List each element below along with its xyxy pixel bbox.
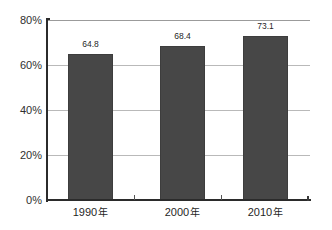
y-axis-top-cap — [46, 18, 50, 20]
x-category-label-1990: 1990年 — [48, 204, 133, 219]
bar-1990 — [68, 54, 113, 200]
x-tick-mark-1 — [134, 195, 135, 200]
x-tick-mark-2 — [221, 195, 222, 200]
x-category-unit-1990: 年 — [98, 207, 108, 218]
y-tick-label-0: 0% — [0, 194, 42, 206]
x-axis-line — [46, 199, 311, 201]
x-category-label-2010: 2010年 — [223, 204, 308, 219]
y-tick-label-40: 40% — [0, 104, 42, 116]
y-axis-line — [46, 18, 48, 202]
x-category-year-2010: 2010 — [248, 206, 272, 218]
bar-chart: 64.8 68.4 73.1 80% 60% 40% 20% 0% 1990年 … — [0, 0, 332, 230]
x-category-year-1990: 1990 — [73, 206, 97, 218]
x-category-label-2000: 2000年 — [140, 204, 225, 219]
y-tick-label-20: 20% — [0, 149, 42, 161]
bar-value-1990: 64.8 — [68, 39, 113, 49]
x-category-unit-2010: 年 — [273, 207, 283, 218]
x-category-unit-2000: 年 — [190, 207, 200, 218]
bar-value-2000: 68.4 — [160, 31, 205, 41]
y-tick-label-80: 80% — [0, 14, 42, 26]
bar-value-2010: 73.1 — [243, 21, 288, 31]
x-axis-end-cap — [307, 196, 309, 201]
x-category-year-2000: 2000 — [165, 206, 189, 218]
bar-2010 — [243, 36, 288, 200]
bar-2000 — [160, 46, 205, 200]
y-tick-label-60: 60% — [0, 59, 42, 71]
